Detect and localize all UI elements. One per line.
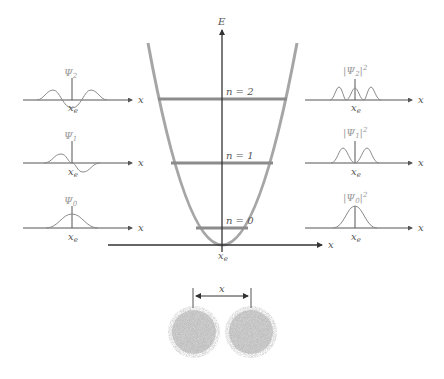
density-psi1: |Ψ1|2 x xe	[305, 126, 424, 179]
wavefunction-psi2: Ψ2 x xe	[23, 67, 144, 115]
diatomic-molecule: x	[168, 283, 277, 358]
level-label-n2: n = 2	[226, 86, 254, 97]
atom-right-core	[229, 310, 273, 354]
level-label-n0: n = 0	[226, 215, 254, 226]
psi2-center-label: xe	[68, 102, 78, 115]
density0-axis-label: x	[418, 222, 424, 233]
density-psi0: |Ψ0|2 x xe	[305, 191, 424, 244]
density1-axis-label: x	[418, 157, 424, 168]
psi1-center-label: xe	[68, 166, 78, 179]
level-label-n1: n = 1	[226, 150, 254, 161]
density2-center-label: xe	[351, 102, 361, 115]
psi0-axis-label: x	[138, 222, 144, 233]
origin-label: xe	[218, 250, 228, 263]
energy-axis-label: E	[217, 16, 226, 27]
psi1-label: Ψ1	[64, 130, 77, 143]
oscillator-diagram: E x xe n = 2 n = 1 n = 0 Ψ2 x xe Ψ1 x xe…	[0, 0, 444, 379]
density2-label: |Ψ2|2	[343, 64, 368, 78]
density-psi2: |Ψ2|2 x xe	[305, 64, 424, 115]
separation-label: x	[219, 283, 225, 294]
density2-axis-label: x	[418, 94, 424, 105]
atom-left-core	[172, 310, 216, 354]
density1-label: |Ψ1|2	[343, 126, 368, 140]
psi2-axis-label: x	[138, 94, 144, 105]
psi0-label: Ψ0	[64, 195, 78, 208]
density1-center-label: xe	[351, 166, 361, 179]
density0-label: |Ψ0|2	[343, 191, 368, 205]
position-axis-label: x	[328, 239, 334, 250]
density0-center-label: xe	[351, 231, 361, 244]
wavefunction-psi1: Ψ1 x xe	[23, 130, 144, 179]
psi0-center-label: xe	[68, 231, 78, 244]
wavefunction-psi0: Ψ0 x xe	[23, 195, 144, 244]
psi2-label: Ψ2	[64, 67, 78, 80]
psi1-axis-label: x	[138, 157, 144, 168]
